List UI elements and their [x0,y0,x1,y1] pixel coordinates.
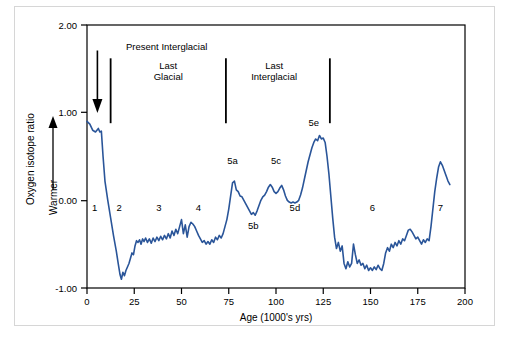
y-axis-tick-labels: 2.00 1.00 0.00 -1.00 [55,20,77,294]
period-label-1: LastInterglacial [251,60,297,83]
y-tick-label-1: 1.00 [59,107,78,118]
x-tick-label-0: 0 [84,296,89,307]
y-axis-title-group: Oxygen isotope ratio Warmer [25,113,59,215]
stage-labels: 12345a5b5c5d5e67 [92,117,443,231]
stage-label-7: 7 [438,202,443,213]
y-tick-label-0: 0.00 [59,195,78,206]
stage-label-2: 2 [116,202,121,213]
x-axis-title: Age (1000's yrs) [240,312,313,323]
present-interglacial-annotation: Present Interglacial [92,41,207,113]
y-tick-label-2: 2.00 [59,20,78,31]
stage-label-5b: 5b [248,220,259,231]
x-tick-label-100: 100 [268,296,284,307]
annotation-label-present-interglacial: Present Interglacial [126,41,207,52]
y-axis-ticks [81,25,87,288]
stage-label-5a: 5a [227,155,238,166]
period-label-0: LastGlacial [154,60,183,83]
warmer-up-arrow-icon [49,116,58,190]
x-tick-label-125: 125 [315,296,331,307]
x-tick-label-75: 75 [223,296,234,307]
x-tick-label-200: 200 [457,296,473,307]
y-axis-title: Oxygen isotope ratio [25,113,36,205]
y-tick-label-neg1: -1.00 [55,283,77,294]
x-axis-ticks [87,288,465,294]
stage-label-3: 3 [156,202,161,213]
down-arrow-icon [92,51,102,114]
stage-label-5d: 5d [290,202,301,213]
stage-label-5e: 5e [309,117,320,128]
x-axis-tick-labels: 0 25 50 75 100 125 150 175 200 [84,296,473,307]
figure-container: 2.00 1.00 0.00 -1.00 Oxygen isotope rati… [0,0,509,339]
stage-label-1: 1 [92,202,97,213]
stage-label-6: 6 [370,202,375,213]
x-tick-label-175: 175 [410,296,426,307]
x-tick-label-150: 150 [363,296,379,307]
stage-label-5c: 5c [271,155,281,166]
stage-label-4: 4 [196,202,201,213]
period-divider-bars [111,58,330,123]
x-tick-label-50: 50 [176,296,187,307]
x-tick-label-25: 25 [129,296,140,307]
oxygen-isotope-chart: 2.00 1.00 0.00 -1.00 Oxygen isotope rati… [0,0,509,339]
isotope-curve [87,121,450,279]
